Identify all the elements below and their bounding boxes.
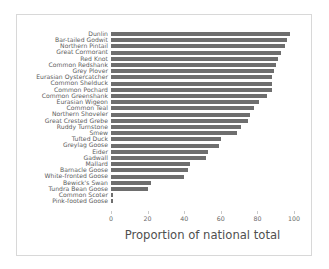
bar [111,181,151,185]
bar [111,63,276,67]
bar [111,137,221,141]
bar [111,44,285,48]
bar [111,100,259,104]
bar [111,94,267,98]
bar [111,168,188,172]
bar-row: Pink-footed Goose [0,198,329,204]
x-tick [111,211,112,214]
bar [111,51,281,55]
category-label: Pink-footed Goose [0,197,108,204]
bar [111,144,219,148]
x-tick-label: 20 [133,215,163,223]
bar [111,162,190,166]
bar [111,187,148,191]
x-axis-label: Proportion of national total [111,228,294,243]
bar [111,88,272,92]
x-tick [294,211,295,214]
x-tick-label: 80 [242,215,272,223]
bar [111,131,237,135]
x-tick [184,211,185,214]
bar [111,106,254,110]
x-tick-label: 100 [279,215,309,223]
x-tick-label: 0 [96,215,126,223]
bar [111,75,272,79]
bar [111,82,272,86]
x-tick-label: 40 [169,215,199,223]
bar [111,199,113,203]
bar [111,125,241,129]
bar [111,150,208,154]
bar [111,156,206,160]
x-tick [148,211,149,214]
x-tick [257,211,258,214]
bar [111,69,274,73]
x-tick [221,211,222,214]
chart-figure: DunlinBar-tailed GodwitNorthern PintailG… [0,0,329,269]
bar [111,57,278,61]
bar [111,113,250,117]
bar [111,38,287,42]
bar [111,119,248,123]
x-tick-label: 60 [206,215,236,223]
plot-area: DunlinBar-tailed GodwitNorthern PintailG… [0,0,329,269]
bar [111,32,290,36]
bar [111,175,184,179]
bar [111,193,113,197]
